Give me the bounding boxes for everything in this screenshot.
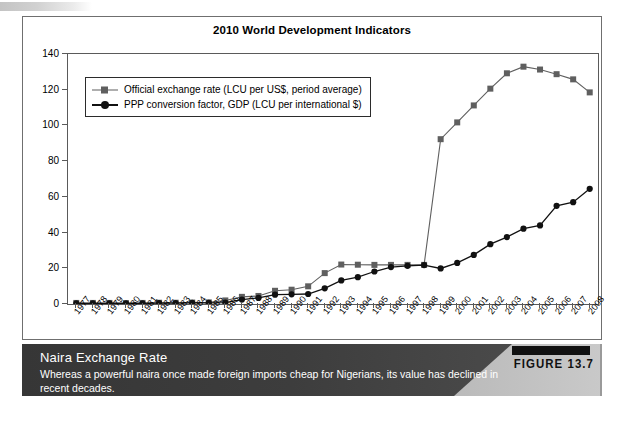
data-point bbox=[553, 203, 559, 209]
y-axis-tick bbox=[62, 196, 67, 197]
data-point bbox=[471, 102, 477, 108]
data-point bbox=[487, 86, 493, 92]
y-axis-label: 140 bbox=[25, 48, 59, 59]
data-point bbox=[520, 64, 526, 70]
legend-marker-circle-icon bbox=[92, 99, 118, 111]
figure-badge-bar bbox=[512, 346, 590, 355]
chart-panel: 2010 World Development Indicators Offici… bbox=[22, 16, 602, 340]
data-point bbox=[322, 270, 328, 276]
y-axis-tick bbox=[62, 267, 67, 268]
data-point bbox=[338, 262, 344, 268]
data-point bbox=[404, 263, 410, 269]
data-point bbox=[371, 268, 377, 274]
caption-body: Whereas a powerful naira once made forei… bbox=[40, 368, 510, 395]
y-axis-label: 20 bbox=[25, 262, 59, 273]
data-point bbox=[338, 277, 344, 283]
data-point bbox=[504, 70, 510, 76]
data-point bbox=[454, 119, 460, 125]
data-point bbox=[322, 285, 328, 291]
series-line-ppp bbox=[76, 189, 589, 303]
y-axis-label: 100 bbox=[25, 119, 59, 130]
data-point bbox=[388, 264, 394, 270]
data-point bbox=[355, 274, 361, 280]
data-point bbox=[305, 283, 311, 289]
data-point bbox=[272, 292, 278, 298]
data-point bbox=[587, 89, 593, 95]
data-point bbox=[471, 252, 477, 258]
data-point bbox=[438, 265, 444, 271]
data-point bbox=[487, 241, 493, 247]
y-axis-label: 60 bbox=[25, 190, 59, 201]
caption-right-rule bbox=[600, 344, 602, 396]
data-point bbox=[520, 226, 526, 232]
y-axis-label: 120 bbox=[25, 83, 59, 94]
data-point bbox=[587, 186, 593, 192]
data-point bbox=[570, 76, 576, 82]
data-point bbox=[438, 136, 444, 142]
data-point bbox=[454, 260, 460, 266]
figure-caption-band: Naira Exchange Rate Whereas a powerful n… bbox=[22, 344, 602, 396]
data-point bbox=[288, 291, 294, 297]
y-axis-tick bbox=[62, 89, 67, 90]
legend-item-ppp: PPP conversion factor, GDP (LCU per inte… bbox=[92, 97, 362, 112]
data-point bbox=[554, 71, 560, 77]
y-axis-label: 40 bbox=[25, 226, 59, 237]
legend-label-exchange-rate: Official exchange rate (LCU per US$, per… bbox=[124, 84, 362, 95]
y-axis-label: 80 bbox=[25, 155, 59, 166]
y-axis-tick bbox=[62, 232, 67, 233]
data-point bbox=[421, 262, 427, 268]
caption-title: Naira Exchange Rate bbox=[40, 350, 167, 365]
data-point bbox=[355, 262, 361, 268]
figure-number-badge: FIGURE 13.7 bbox=[498, 346, 594, 371]
y-axis-label: 0 bbox=[25, 298, 59, 309]
data-point bbox=[371, 262, 377, 268]
data-point bbox=[305, 291, 311, 297]
figure-number-label: FIGURE 13.7 bbox=[510, 356, 594, 371]
data-point bbox=[537, 67, 543, 73]
legend-item-exchange-rate: Official exchange rate (LCU per US$, per… bbox=[92, 82, 362, 97]
y-axis-tick bbox=[62, 53, 67, 54]
y-axis-tick bbox=[62, 124, 67, 125]
chart-legend: Official exchange rate (LCU per US$, per… bbox=[85, 77, 371, 117]
figure-container: 2010 World Development Indicators Offici… bbox=[0, 0, 624, 424]
legend-label-ppp: PPP conversion factor, GDP (LCU per inte… bbox=[124, 99, 362, 110]
y-axis-tick bbox=[62, 303, 67, 304]
legend-marker-square-icon bbox=[92, 84, 118, 96]
y-axis-tick bbox=[62, 160, 67, 161]
data-point bbox=[504, 234, 510, 240]
data-point bbox=[537, 222, 543, 228]
chart-title: 2010 World Development Indicators bbox=[23, 24, 601, 36]
data-point bbox=[570, 199, 576, 205]
